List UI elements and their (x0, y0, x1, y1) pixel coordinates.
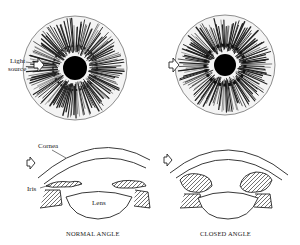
light-source-label: Light (10, 58, 25, 65)
eye-angle-diagram (0, 0, 300, 245)
pupil-closed (214, 54, 236, 76)
closed-iris-front-view (175, 15, 275, 115)
closed-angle-caption: CLOSED ANGLE (200, 230, 251, 237)
closed-angle-cross-section (170, 150, 288, 219)
lens-label: Lens (92, 200, 106, 207)
normal-angle-caption: NORMAL ANGLE (66, 230, 120, 237)
pupil-normal (63, 56, 87, 80)
iris-label: Iris (27, 186, 36, 193)
cornea-label: Cornea (38, 143, 58, 150)
light-arrow-icon (164, 154, 172, 166)
light-source-label-2: source (8, 66, 26, 73)
light-arrow-icon (27, 157, 35, 169)
normal-angle-cross-section (38, 148, 150, 219)
